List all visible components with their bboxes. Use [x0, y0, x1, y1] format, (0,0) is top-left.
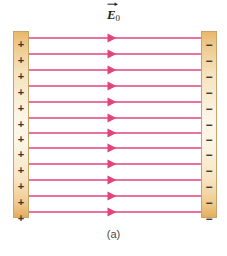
field-line [29, 81, 201, 90]
field-line [29, 128, 201, 137]
field-line-arrowhead-icon [108, 207, 117, 216]
field-line [29, 159, 201, 168]
electric-field-diagram: E0 + + + + + + + + + + + + − − − − − − −… [0, 0, 227, 256]
field-line [29, 143, 201, 152]
field-line-arrowhead-icon [108, 65, 117, 74]
field-line-arrowhead-icon [108, 49, 117, 58]
field-line-arrowhead-icon [108, 143, 117, 152]
field-line-arrowhead-icon [108, 175, 117, 184]
field-line-arrowhead-icon [108, 191, 117, 200]
field-lines-group [0, 0, 227, 256]
field-line [29, 33, 201, 42]
field-line [29, 65, 201, 74]
field-line-arrowhead-icon [108, 113, 117, 122]
field-line [29, 97, 201, 106]
field-line [29, 191, 201, 200]
field-line [29, 113, 201, 122]
field-line-arrowhead-icon [108, 33, 117, 42]
field-line-arrowhead-icon [108, 128, 117, 137]
field-line [29, 49, 201, 58]
field-line-arrowhead-icon [108, 159, 117, 168]
field-line [29, 175, 201, 184]
field-line [29, 207, 201, 216]
figure-caption: (a) [0, 228, 227, 240]
field-line-arrowhead-icon [108, 81, 117, 90]
field-line-arrowhead-icon [108, 97, 117, 106]
